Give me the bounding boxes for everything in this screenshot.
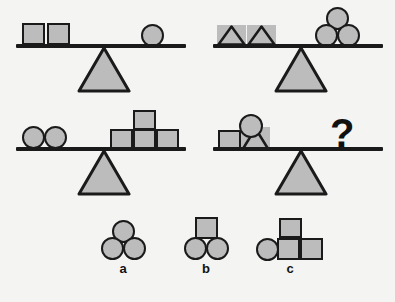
puzzle-canvas: ? a b c [0, 0, 395, 302]
option-a[interactable]: a [97, 215, 153, 285]
scale-4-left-circle [239, 114, 263, 138]
option-c-square-bottom-middle [277, 238, 300, 260]
option-b-circle-bottom-left [184, 237, 207, 260]
option-b[interactable]: b [180, 215, 236, 285]
scale-1-left-square-1 [22, 23, 45, 45]
scale-3-right-square-bottom-3 [156, 129, 179, 149]
scale-4: ? [197, 103, 395, 203]
option-b-circle-bottom-right [206, 237, 229, 260]
scale-3-right-square-bottom-2 [133, 129, 156, 149]
fulcrum-triangle-icon [274, 149, 328, 196]
triangle-icon [217, 25, 246, 46]
triangle-icon [247, 25, 276, 46]
scale-1-left-square-2 [47, 23, 70, 45]
option-c-square-top [279, 218, 302, 238]
scale-3-left-circle-2 [44, 126, 67, 149]
option-c[interactable]: c [252, 215, 328, 285]
scale-1 [0, 0, 197, 100]
scale-2-left-triangle-1 [217, 25, 246, 46]
answer-options: a b c [0, 215, 395, 302]
fulcrum-triangle-icon [77, 46, 131, 93]
option-c-square-bottom-right [300, 238, 323, 260]
scale-3-right-square-top [133, 110, 156, 130]
scale-3-right-square-bottom-1 [110, 129, 133, 149]
option-a-circle-bottom-left [101, 237, 124, 260]
fulcrum-triangle-icon [274, 46, 328, 93]
option-a-label: a [108, 261, 138, 276]
option-c-circle-bottom-left [256, 238, 279, 261]
option-c-label: c [275, 261, 305, 276]
fulcrum-triangle-icon [77, 149, 131, 196]
option-b-label: b [191, 261, 221, 276]
scale-3 [0, 103, 197, 203]
scale-3-left-circle-1 [22, 126, 45, 149]
scale-2 [197, 0, 395, 100]
option-b-square-top [195, 217, 218, 239]
scale-2-left-triangle-2 [247, 25, 276, 46]
option-a-circle-bottom-right [123, 237, 146, 260]
